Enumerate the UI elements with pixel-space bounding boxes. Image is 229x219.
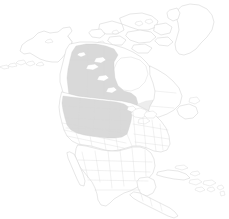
north-america-map	[0, 0, 229, 219]
range-map-figure: North America species range map	[0, 0, 229, 219]
